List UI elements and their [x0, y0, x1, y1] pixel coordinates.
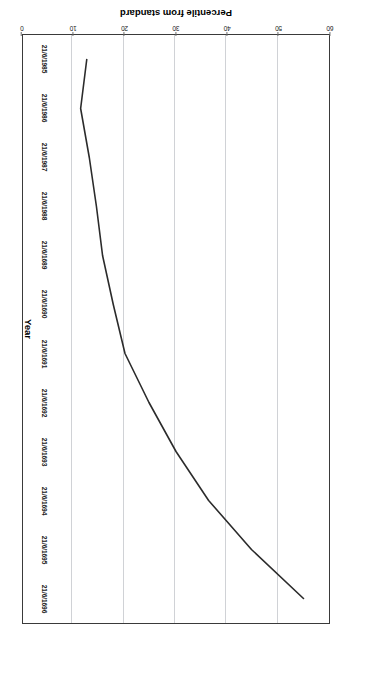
value-tick-mark	[329, 32, 330, 36]
value-tick-40: 40	[224, 24, 231, 32]
category-tick-label: 21/6/1691	[40, 339, 48, 367]
series-line	[23, 35, 329, 623]
category-tick-label: 21/6/1694	[40, 487, 48, 515]
plot-area	[22, 34, 330, 624]
value-tick-10: 10	[70, 24, 77, 32]
value-tick-60: 60	[327, 24, 334, 32]
category-tick-label: 21/6/1692	[40, 389, 48, 417]
category-tick-label: 21/6/1985	[40, 44, 48, 72]
series-path-percentile	[81, 59, 304, 598]
category-tick-label: 21/6/1690	[40, 290, 48, 318]
value-tick-mark	[175, 32, 176, 36]
category-tick-label: 21/6/1696	[40, 585, 48, 613]
value-tick-30: 30	[173, 24, 180, 32]
value-tick-20: 20	[121, 24, 128, 32]
value-tick-mark	[278, 32, 279, 36]
category-tick-label: 21/6/1695	[40, 536, 48, 564]
category-tick-label: 21/6/1986	[40, 94, 48, 122]
value-tick-mark	[72, 32, 73, 36]
value-axis-title: Percentile from standard	[22, 7, 330, 19]
value-tick-mark	[226, 32, 227, 36]
category-tick-label: 21/6/1689	[40, 241, 48, 269]
value-tick-50: 50	[275, 24, 282, 32]
category-axis-title: Year	[23, 319, 34, 339]
line-chart: 0102030405060 Percentile from standard 2…	[0, 0, 380, 695]
value-tick-mark	[124, 32, 125, 36]
category-tick-label: 21/6/1988	[40, 192, 48, 220]
category-tick-label: 21/6/1693	[40, 438, 48, 466]
value-tick-0: 0	[20, 24, 23, 32]
category-tick-label: 21/6/1987	[40, 143, 48, 171]
chart-figure-rotated: 0102030405060 Percentile from standard 2…	[0, 0, 380, 695]
